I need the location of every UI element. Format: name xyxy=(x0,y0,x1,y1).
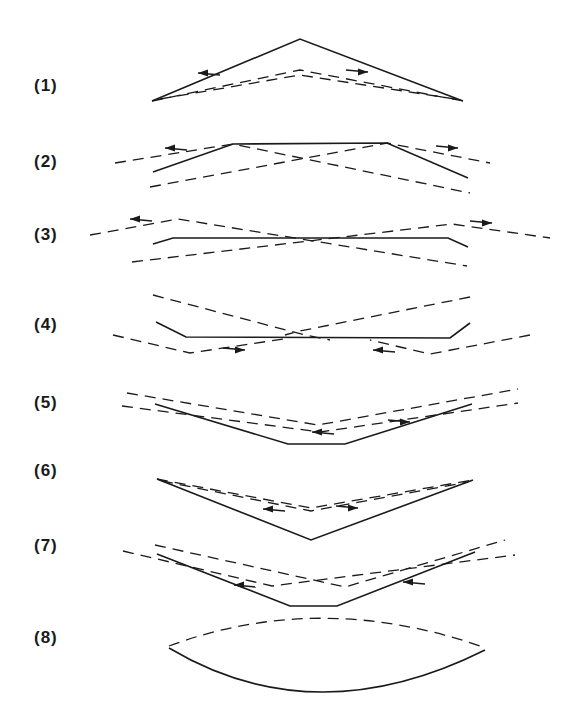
solid-curve xyxy=(169,648,485,692)
dashed-curve xyxy=(157,479,473,508)
panel-4 xyxy=(113,295,530,354)
panel-5 xyxy=(122,389,518,444)
solid-curve xyxy=(156,322,470,338)
dashed-curve xyxy=(132,224,550,262)
panel-7 xyxy=(123,540,515,606)
panel-2 xyxy=(115,143,490,193)
panel-3 xyxy=(90,216,550,267)
dashed-curve xyxy=(152,70,463,101)
dashed-curve xyxy=(122,403,518,432)
panel-8 xyxy=(169,618,485,692)
dashed-curve xyxy=(162,481,468,511)
dashed-curve xyxy=(127,389,518,425)
panel-1 xyxy=(152,39,463,101)
solid-curve xyxy=(153,238,468,247)
mode-diagram xyxy=(0,0,571,715)
dashed-curve xyxy=(90,219,467,266)
panel-6 xyxy=(157,479,473,540)
dashed-curve xyxy=(115,144,470,193)
solid-curve xyxy=(157,552,475,606)
dashed-curve xyxy=(169,618,483,647)
dashed-curve xyxy=(285,297,470,335)
solid-curve xyxy=(152,39,463,101)
